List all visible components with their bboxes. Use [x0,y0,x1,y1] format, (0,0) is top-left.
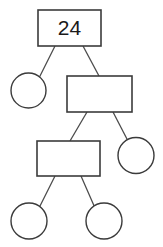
level1-circle-left-shape[interactable] [11,73,46,108]
edge-box1-to-box2 [70,112,87,141]
node-root-box[interactable]: 24 [38,10,101,46]
edge-group [39,46,128,208]
root-box-label: 24 [58,16,82,39]
edge-box2-to-circle-right [81,176,95,208]
edge-box1-to-circle2 [113,112,128,141]
edge-root-to-left-circle [39,46,55,78]
node-level2-box-left[interactable] [37,141,100,176]
edge-root-to-right-box [83,46,99,76]
level2-circle-right-shape[interactable] [118,138,154,174]
factor-tree-figure: 24 [0,0,163,247]
node-level1-circle-left[interactable] [11,73,46,108]
node-level2-circle-right[interactable] [118,138,154,174]
edge-box2-to-circle-left [39,176,55,208]
level3-circle-left-shape[interactable] [11,203,47,239]
level1-box-right-shape[interactable] [67,76,132,112]
level3-circle-right-shape[interactable] [86,203,122,239]
node-level1-box-right[interactable] [67,76,132,112]
node-level3-circle-left[interactable] [11,203,47,239]
level2-box-left-shape[interactable] [37,141,100,176]
factor-tree-canvas: 24 [0,0,163,247]
node-level3-circle-right[interactable] [86,203,122,239]
